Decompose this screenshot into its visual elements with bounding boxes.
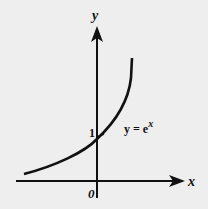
x-axis-label: x (187, 174, 195, 189)
exponential-chart: y x 0 1 y = ex (0, 0, 208, 209)
curve-label: y = ex (124, 118, 153, 136)
exp-curve (24, 58, 132, 174)
intercept-label: 1 (89, 126, 95, 140)
origin-label: 0 (88, 186, 95, 201)
y-axis-label: y (90, 8, 99, 23)
